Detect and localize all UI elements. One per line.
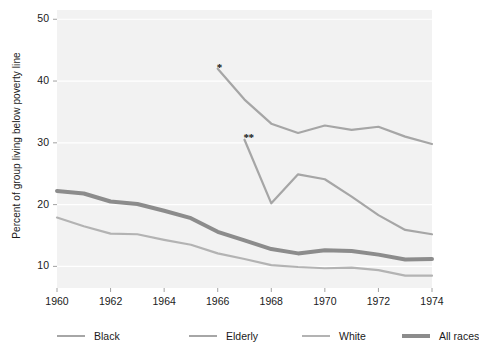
x-tick-label-1972: 1972 [353,295,403,307]
legend-swatch-icon [189,335,217,337]
legend-swatch-icon [57,335,85,337]
x-tick-label-1962: 1962 [86,295,136,307]
x-tick-label-1970: 1970 [300,295,350,307]
chart-legend: BlackElderlyWhiteAll races [57,326,437,348]
legend-item-black[interactable]: Black [57,326,120,346]
legend-label: Black [94,330,120,342]
legend-swatch-icon [302,335,330,337]
legend-item-all-races[interactable]: All races [402,326,479,346]
annotation-single-asterisk: * [217,64,222,70]
y-tick-label-50: 50 [9,12,49,24]
x-tick-label-1960: 1960 [32,295,82,307]
legend-label: White [339,330,366,342]
y-tick-label-40: 40 [9,74,49,86]
series-line-all-races [57,191,432,260]
x-tick-label-1974: 1974 [407,295,457,307]
series-lines-group [57,69,432,276]
y-tick-label-30: 30 [9,136,49,148]
annotation-double-asterisk: ** [244,134,254,140]
axis-ticks-group [53,19,432,292]
legend-item-elderly[interactable]: Elderly [189,326,258,346]
series-line-elderly [245,140,433,235]
x-tick-label-1964: 1964 [139,295,189,307]
x-tick-label-1966: 1966 [193,295,243,307]
x-tick-label-1968: 1968 [246,295,296,307]
legend-label: All races [439,330,479,342]
legend-swatch-icon [402,334,430,338]
y-tick-label-20: 20 [9,198,49,210]
legend-item-white[interactable]: White [302,326,366,346]
y-tick-label-10: 10 [9,259,49,271]
legend-label: Elderly [226,330,258,342]
